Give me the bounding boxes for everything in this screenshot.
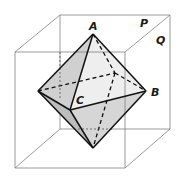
label-vertex-a: A — [88, 20, 98, 33]
label-vertex-b: B — [151, 86, 159, 99]
label-plane-p: P — [140, 17, 148, 30]
label-plane-q: Q — [156, 34, 165, 47]
octahedron — [38, 34, 146, 148]
octahedron-diagram: A B C P Q — [0, 0, 180, 180]
label-vertex-c: C — [76, 94, 84, 107]
